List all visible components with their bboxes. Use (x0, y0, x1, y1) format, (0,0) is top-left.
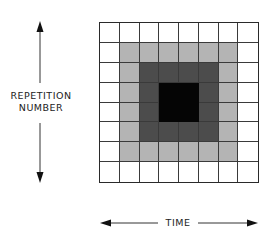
grid-cell (159, 142, 179, 162)
y-axis-label: REPETITION NUMBER (6, 90, 76, 114)
grid-cell (219, 122, 239, 142)
grid-cell (120, 162, 140, 182)
grid-cell (159, 23, 179, 43)
grid-cell (100, 142, 120, 162)
grid-cell (120, 142, 140, 162)
grid-cell (179, 83, 199, 103)
grid-cell (238, 63, 258, 83)
grid-cell (179, 43, 199, 63)
grid-cell (219, 23, 239, 43)
grid-cell (238, 43, 258, 63)
grid-cell (238, 122, 258, 142)
grid-cell (120, 122, 140, 142)
x-axis-label: TIME (158, 217, 198, 229)
grid-cell (159, 122, 179, 142)
grid-cell (199, 23, 219, 43)
grid-cell (199, 63, 219, 83)
grid-cell (179, 63, 199, 83)
grid-cell (120, 83, 140, 103)
grid-cell (140, 103, 160, 123)
grid-cell (219, 63, 239, 83)
grid-cell (140, 142, 160, 162)
grid-cell (219, 103, 239, 123)
grid-cell (140, 122, 160, 142)
grid-cell (179, 122, 199, 142)
grid-cell (100, 103, 120, 123)
grid-cell (238, 103, 258, 123)
grid-cell (120, 63, 140, 83)
grid-cell (179, 162, 199, 182)
grid-cell (238, 162, 258, 182)
repetition-time-grid (99, 22, 259, 183)
grid-cell (179, 23, 199, 43)
grid-cell (159, 63, 179, 83)
grid-cell (219, 43, 239, 63)
grid-cell (100, 23, 120, 43)
grid-cell (219, 142, 239, 162)
grid-cell (199, 142, 219, 162)
grid-cell (238, 23, 258, 43)
grid-cell (199, 162, 219, 182)
grid-cell (238, 83, 258, 103)
grid-cell (120, 43, 140, 63)
grid-cell (140, 162, 160, 182)
grid-cell (199, 122, 219, 142)
grid-cell (179, 142, 199, 162)
grid-cell (159, 83, 179, 103)
grid-cell (219, 162, 239, 182)
grid-cell (140, 63, 160, 83)
grid-cell (100, 83, 120, 103)
grid-cell (140, 83, 160, 103)
grid-cell (120, 103, 140, 123)
grid-cell (238, 142, 258, 162)
grid-cell (199, 103, 219, 123)
grid-cell (159, 43, 179, 63)
grid-cell (159, 103, 179, 123)
y-axis-label-line2: NUMBER (6, 102, 76, 114)
grid-cell (179, 103, 199, 123)
y-axis-label-line1: REPETITION (6, 90, 76, 102)
grid-cell (199, 43, 219, 63)
grid-cell (100, 162, 120, 182)
grid-cell (140, 23, 160, 43)
grid-cell (100, 122, 120, 142)
grid-cell (100, 63, 120, 83)
grid-cell (219, 83, 239, 103)
grid-cell (199, 83, 219, 103)
grid-cell (100, 43, 120, 63)
grid-cell (159, 162, 179, 182)
grid-cell (140, 43, 160, 63)
grid-cell (120, 23, 140, 43)
